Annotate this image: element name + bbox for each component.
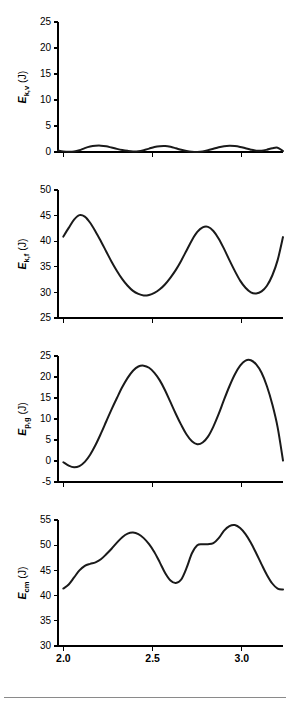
svg-text:Ecm (J): Ecm (J) <box>16 566 31 599</box>
y-tick-label: 20 <box>40 371 52 382</box>
svg-text:Ep,g (J): Ep,g (J) <box>16 402 31 436</box>
y-tick-label: 55 <box>40 514 52 525</box>
y-tick-label: 30 <box>40 287 52 298</box>
svg-text:Ek,f (J): Ek,f (J) <box>16 238 31 269</box>
y-axis-title-3: Ecm (J) <box>16 566 31 599</box>
svg-text:Ek,v (J): Ek,v (J) <box>16 71 31 104</box>
y-tick-label: 5 <box>45 434 51 445</box>
chart-panel-3: 3035404550552.02.53.0Ecm (J)Time (s) <box>0 512 290 662</box>
chart-panel-1: 253035404550Ek,f (J) <box>0 182 290 332</box>
y-tick-label: 25 <box>40 350 52 361</box>
y-tick-label: 35 <box>40 615 52 626</box>
y-tick-label: 45 <box>40 210 52 221</box>
y-tick-label: 10 <box>40 94 52 105</box>
y-tick-label: 50 <box>40 539 52 550</box>
y-tick-label: 40 <box>40 235 52 246</box>
y-tick-label: 25 <box>40 16 52 27</box>
y-tick-label: 0 <box>45 455 51 466</box>
y-tick-label: -5 <box>42 476 51 487</box>
panel-plot-area-1: 253035404550Ek,f (J) <box>0 182 290 332</box>
y-axis-title-2: Ep,g (J) <box>16 402 31 436</box>
x-tick-label: 2.5 <box>145 652 160 662</box>
y-tick-label: 50 <box>40 184 52 195</box>
data-curve-1 <box>63 215 283 296</box>
y-tick-label: 0 <box>45 146 51 157</box>
y-tick-label: 5 <box>45 120 51 131</box>
y-tick-label: 25 <box>40 312 52 323</box>
y-tick-label: 30 <box>40 640 52 651</box>
data-curve-2 <box>63 360 283 467</box>
y-tick-label: 45 <box>40 565 52 576</box>
chart-panel-2: -50510152025Ep,g (J) <box>0 348 290 496</box>
y-tick-label: 15 <box>40 68 52 79</box>
x-tick-label: 3.0 <box>235 652 250 662</box>
panel-plot-area-0: 0510152025Ek,v (J) <box>0 8 290 160</box>
y-axis-title-1: Ek,f (J) <box>16 238 31 269</box>
figure-bottom-rule <box>4 697 286 698</box>
panel-plot-area-2: -50510152025Ep,g (J) <box>0 348 290 496</box>
y-tick-label: 15 <box>40 392 52 403</box>
energy-time-figure: 0510152025Ek,v (J)253035404550Ek,f (J)-5… <box>0 0 290 704</box>
y-axis-title-0: Ek,v (J) <box>16 71 31 104</box>
x-tick-label: 2.0 <box>56 652 71 662</box>
y-tick-label: 35 <box>40 261 52 272</box>
y-tick-label: 10 <box>40 413 52 424</box>
y-tick-label: 40 <box>40 590 52 601</box>
data-curve-3 <box>63 525 283 590</box>
y-tick-label: 20 <box>40 42 52 53</box>
panel-plot-area-3: 3035404550552.02.53.0Ecm (J)Time (s) <box>0 512 290 662</box>
data-curve-0 <box>58 146 283 152</box>
chart-panel-0: 0510152025Ek,v (J) <box>0 8 290 160</box>
